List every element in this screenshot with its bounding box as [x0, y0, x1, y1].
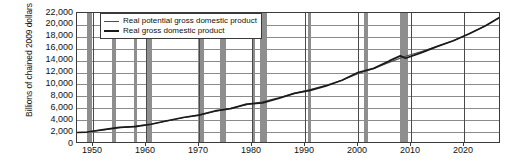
x-axis-tick-label: 2020	[453, 146, 473, 155]
x-axis-tick-label: 2000	[347, 146, 367, 155]
legend-item-potential: Real potential gross domestic product	[104, 16, 257, 26]
legend-swatch-potential-icon	[104, 21, 119, 22]
y-axis-tick-label: 2,000	[29, 127, 73, 136]
y-axis-tick-label: 8,000	[29, 91, 73, 100]
y-axis-tick-label: 20,000	[29, 19, 73, 28]
y-axis-tick-label: 4,000	[29, 115, 73, 124]
y-axis-tick-label: 6,000	[29, 103, 73, 112]
x-axis-tick-label: 1950	[82, 146, 102, 155]
x-axis-tick-label: 1990	[294, 146, 314, 155]
y-axis-tick-label: 18,000	[29, 31, 73, 40]
y-axis-tick-label: 14,000	[29, 55, 73, 64]
gdp-chart-figure: Billions of chained 2009 dollars 22,0002…	[0, 0, 525, 166]
y-axis-tick-label: 16,000	[29, 43, 73, 52]
x-axis-tick-label: 1970	[188, 146, 208, 155]
legend-label-potential: Real potential gross domestic product	[123, 16, 257, 26]
y-axis-tick-label: 22,000	[29, 8, 73, 17]
y-axis-tick-label: 0	[29, 139, 73, 148]
y-axis-tick-label: 12,000	[29, 67, 73, 76]
x-axis-tick-label: 2010	[400, 146, 420, 155]
x-axis-tick-label: 1980	[241, 146, 261, 155]
legend-label-actual: Real gross domestic product	[123, 26, 224, 36]
legend-swatch-actual-icon	[104, 30, 119, 32]
chart-legend: Real potential gross domestic product Re…	[100, 13, 262, 39]
x-axis-tick-label: 1960	[135, 146, 155, 155]
y-axis-tick-labels: 22,00020,00018,00016,00014,00012,00010,0…	[27, 0, 73, 166]
legend-item-actual: Real gross domestic product	[104, 26, 257, 36]
y-axis-tick-label: 10,000	[29, 79, 73, 88]
